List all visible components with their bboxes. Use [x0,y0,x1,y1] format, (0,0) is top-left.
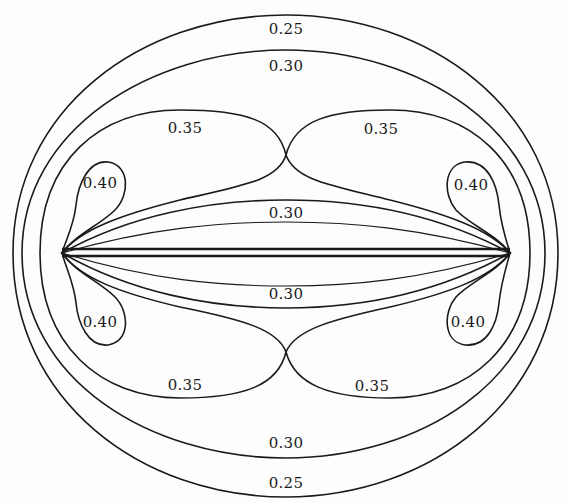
label-outer-top: 0.25 [269,20,304,38]
contour-0.40-bottom-left [62,253,125,345]
label-lobe-top-right: 0.35 [364,120,399,138]
label-outer-bottom: 0.25 [269,474,304,492]
label-second-top: 0.30 [269,57,304,75]
label-tip-top-right: 0.40 [454,176,489,194]
contour-0.30-outer [22,50,545,458]
label-lobe-bottom-left: 0.35 [168,376,203,394]
contour-diagram: 0.25 0.30 0.35 0.35 0.40 0.40 0.30 0.30 … [0,0,566,503]
label-lobe-bottom-right: 0.35 [355,377,390,395]
label-tip-bottom-right: 0.40 [451,313,486,331]
label-inner-bottom: 0.30 [269,285,304,303]
label-second-bottom: 0.30 [269,434,304,452]
label-inner-top: 0.30 [269,204,304,222]
contour-0.35-lobes [40,110,530,398]
label-lobe-top-left: 0.35 [168,119,203,137]
contour-inner-converging [62,222,510,286]
label-tip-bottom-left: 0.40 [83,313,118,331]
contour-lines [0,0,566,503]
label-tip-top-left: 0.40 [83,174,118,192]
